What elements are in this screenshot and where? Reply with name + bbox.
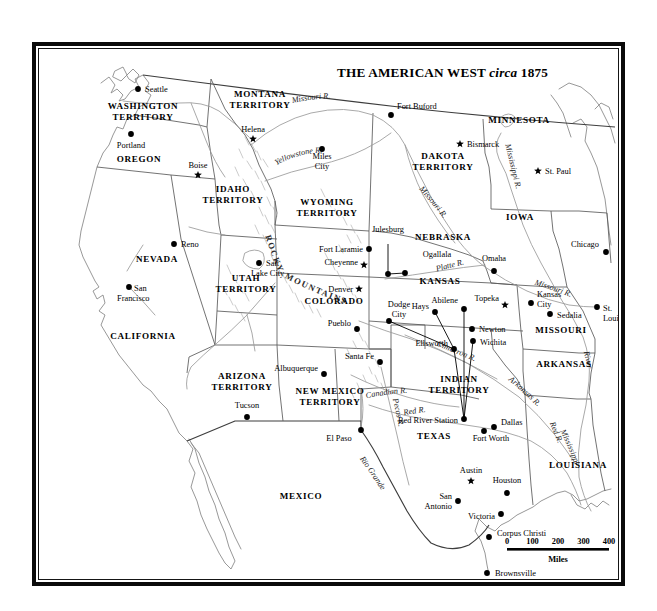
city-cheyenne[interactable]: Cheyenne bbox=[325, 258, 368, 268]
city-label-julesburg: Julesburg bbox=[372, 225, 405, 234]
city-dot-icon bbox=[603, 249, 609, 255]
city-label-ogallala: Ogallala bbox=[423, 250, 452, 259]
city-dot-icon bbox=[491, 268, 497, 274]
capital-star-icon bbox=[534, 167, 542, 174]
city-dot-icon bbox=[128, 131, 134, 137]
river-label-arkansas: Arkansas R. bbox=[506, 374, 542, 408]
city-st-paul[interactable]: St. Paul bbox=[534, 167, 572, 176]
city-el-paso[interactable]: El Paso bbox=[326, 427, 364, 443]
region-label-california: CALIFORNIA bbox=[110, 331, 176, 341]
city-label-hays: Hays bbox=[412, 302, 429, 311]
map-title: THE AMERICAN WEST circa 1875 bbox=[337, 65, 548, 80]
city-label-brownsville: Brownsville bbox=[495, 569, 536, 578]
city-dot-icon bbox=[469, 326, 475, 332]
city-label-line: Dodge bbox=[388, 300, 411, 309]
capital-star-icon bbox=[456, 140, 464, 147]
city-dot-icon bbox=[126, 284, 132, 290]
city-san-francisco[interactable]: SanFrancisco bbox=[117, 284, 150, 303]
river-label-missouri-dakota: Missouri R. bbox=[417, 184, 449, 220]
state-borders bbox=[97, 79, 611, 505]
city-label-santa-fe: Santa Fe bbox=[345, 352, 374, 361]
city-fort-laramie[interactable]: Fort Laramie bbox=[319, 245, 372, 254]
region-label-texas: TEXAS bbox=[417, 431, 451, 441]
city-reno[interactable]: Reno bbox=[171, 240, 199, 249]
city-st-louis[interactable]: St.Louis bbox=[594, 304, 618, 323]
city-dot-icon bbox=[366, 246, 372, 252]
city-dot-icon bbox=[432, 309, 438, 315]
city-boise[interactable]: Boise bbox=[188, 161, 207, 178]
city-victoria[interactable]: Victoria bbox=[468, 511, 504, 521]
city-helena[interactable]: Helena bbox=[241, 125, 265, 142]
city-topeka[interactable]: Topeka bbox=[474, 294, 508, 308]
region-label-line: NEVADA bbox=[136, 254, 178, 264]
city-label-denver: Denver bbox=[328, 285, 353, 294]
city-label-omaha: Omaha bbox=[482, 254, 506, 263]
city-dot-icon bbox=[504, 490, 510, 496]
city-label-newton: Newton bbox=[479, 325, 506, 334]
city-label-st-paul: St. Paul bbox=[545, 167, 572, 176]
city-albuquerque[interactable]: Albuquerque bbox=[274, 364, 327, 377]
city-label-line: Antonio bbox=[425, 502, 452, 511]
city-wichita[interactable]: Wichita bbox=[470, 338, 506, 347]
city-pueblo[interactable]: Pueblo bbox=[328, 319, 360, 332]
region-label-line: COLORADO bbox=[304, 296, 363, 306]
region-label-line: KANSAS bbox=[419, 276, 460, 286]
city-label-albuquerque: Albuquerque bbox=[274, 364, 318, 373]
capital-star-icon bbox=[360, 261, 368, 268]
city-dot-icon bbox=[354, 326, 360, 332]
city-label-topeka: Topeka bbox=[474, 294, 499, 303]
region-label-idaho-territory: IDAHOTERRITORY bbox=[203, 184, 264, 205]
city-chicago[interactable]: Chicago bbox=[571, 240, 609, 255]
scale-tick-0: 0 bbox=[505, 537, 509, 546]
city-label-line: Kansas bbox=[537, 290, 561, 299]
city-red-river-station[interactable]: Red River Station bbox=[398, 416, 467, 425]
city-dot-icon bbox=[388, 112, 394, 118]
region-label-iowa: IOWA bbox=[506, 212, 534, 222]
city-dot-icon bbox=[491, 424, 497, 430]
city-label-fort-laramie: Fort Laramie bbox=[319, 245, 363, 254]
city-label-seattle: Seattle bbox=[145, 85, 168, 94]
region-label-washington-territory: WASHINGTONTERRITORY bbox=[108, 101, 179, 122]
city-label-cheyenne: Cheyenne bbox=[325, 258, 359, 267]
city-austin[interactable]: Austin bbox=[460, 466, 483, 484]
city-label-line: City bbox=[392, 310, 407, 319]
city-seattle[interactable]: Seattle bbox=[135, 85, 168, 94]
region-label-indian-territory: INDIANTERRITORY bbox=[429, 374, 490, 395]
city-fort-buford[interactable]: Fort Buford bbox=[388, 102, 437, 118]
capital-star-icon bbox=[355, 285, 363, 292]
city-dot-icon bbox=[484, 570, 490, 576]
region-labels: WASHINGTONTERRITORYOREGONMONTANATERRITOR… bbox=[108, 89, 607, 501]
city-fort-worth[interactable]: Fort Worth bbox=[473, 428, 510, 443]
city-tucson[interactable]: Tucson bbox=[235, 401, 260, 420]
city-label-austin: Austin bbox=[460, 466, 483, 475]
river-label-missouri-upper: Missouri R. bbox=[290, 92, 330, 106]
city-omaha[interactable]: Omaha bbox=[482, 254, 506, 274]
region-label-line: IDAHO bbox=[216, 184, 250, 194]
city-san-antonio[interactable]: SanAntonio bbox=[425, 492, 461, 511]
city-label-fort-worth: Fort Worth bbox=[473, 434, 510, 443]
map-title-circa: circa bbox=[489, 65, 517, 80]
city-dot-icon bbox=[461, 416, 467, 422]
city-denver[interactable]: Denver bbox=[328, 285, 363, 294]
city-bismarck[interactable]: Bismarck bbox=[456, 140, 500, 149]
city-dot-icon bbox=[385, 271, 391, 277]
city-label-line: St. bbox=[603, 304, 612, 313]
city-abilene[interactable]: Abilene bbox=[431, 296, 466, 312]
region-label-line: IOWA bbox=[506, 212, 534, 222]
city-brownsville[interactable]: Brownsville bbox=[484, 569, 536, 578]
city-dot-icon bbox=[528, 300, 534, 306]
city-kansas-city[interactable]: KansasCity bbox=[528, 290, 561, 309]
city-label-el-paso: El Paso bbox=[326, 434, 351, 443]
city-portland[interactable]: Portland bbox=[117, 131, 146, 150]
river-label-mississippi: Mississippi R. bbox=[503, 142, 523, 190]
city-label-kansas-city: KansasCity bbox=[537, 290, 561, 309]
city-newton[interactable]: Newton bbox=[469, 325, 506, 334]
city-dodge-city[interactable]: DodgeCity bbox=[386, 300, 410, 324]
region-label-line: OREGON bbox=[117, 154, 162, 164]
city-houston[interactable]: Houston bbox=[493, 476, 522, 496]
city-label-houston: Houston bbox=[493, 476, 522, 485]
region-label-line: ARKANSAS bbox=[536, 359, 592, 369]
city-dallas[interactable]: Dallas bbox=[491, 418, 522, 430]
city-label-red-river-station: Red River Station bbox=[398, 416, 459, 425]
city-sedalia[interactable]: Sedalia bbox=[547, 311, 582, 320]
